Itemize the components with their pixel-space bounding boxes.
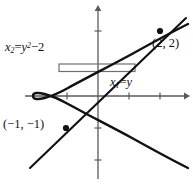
x-axis-arrowhead [184, 93, 190, 100]
y-axis-arrowhead [95, 5, 102, 11]
intersection-marker-upper [157, 28, 163, 34]
plot-canvas [0, 0, 193, 190]
y-axis [95, 5, 102, 179]
point-label-lower: (−1, −1) [3, 118, 44, 131]
parabola-label-constant: 2 [38, 40, 44, 54]
point-label-upper: (2, 2) [152, 37, 179, 50]
representative-strip [59, 64, 135, 72]
parabola-label-minus: − [31, 40, 38, 54]
line-label-rhs: y [127, 75, 133, 89]
intersection-marker-lower [63, 125, 69, 131]
curve-label-parabola: x2=y2−2 [5, 41, 44, 54]
parabola-line-region-figure: x2=y2−2 x1=y (2, 2) (−1, −1) [0, 0, 193, 190]
line-label-equals: = [119, 75, 126, 89]
curve-label-line: x1=y [110, 76, 132, 89]
parabola-label-equals: = [14, 40, 21, 54]
